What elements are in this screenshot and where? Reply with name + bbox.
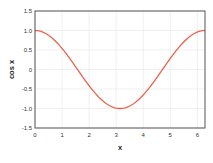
y-tick-label: 0.5: [24, 47, 33, 53]
y-axis-label: cos x: [7, 59, 16, 79]
x-tick-label: 0: [33, 132, 37, 138]
y-tick-label: -0.5: [22, 86, 33, 92]
x-axis-label: x: [118, 143, 123, 152]
x-tick-label: 3: [114, 132, 118, 138]
y-tick-label: 1.5: [24, 8, 33, 14]
x-tick-label: 6: [196, 132, 200, 138]
x-tick-label: 5: [169, 132, 173, 138]
x-tick-labels: 0123456: [33, 132, 199, 138]
y-tick-label: -1.0: [22, 106, 33, 112]
grid-lines: [35, 11, 205, 128]
x-tick-label: 2: [87, 132, 91, 138]
y-tick-label: -1.5: [22, 125, 33, 131]
y-tick-label: 1.0: [24, 28, 33, 34]
cos-chart: 0123456 1.51.00.50-0.5-1.0-1.5 x cos x: [0, 0, 213, 163]
y-tick-label: 0: [29, 67, 33, 73]
x-tick-label: 4: [142, 132, 146, 138]
y-tick-labels: 1.51.00.50-0.5-1.0-1.5: [22, 8, 33, 131]
x-tick-label: 1: [60, 132, 64, 138]
